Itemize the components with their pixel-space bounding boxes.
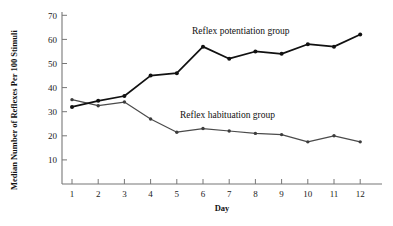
- data-point-marker: [280, 52, 284, 56]
- x-tick-label: 11: [330, 189, 339, 199]
- data-point-marker: [175, 71, 179, 75]
- x-tick-label: 7: [227, 189, 232, 199]
- data-point-marker: [359, 140, 362, 143]
- data-point-marker: [96, 99, 100, 103]
- y-axis-title-text: Median Number of Reflexes Per 100 Stimul…: [9, 30, 19, 190]
- series-label-habituation: Reflex habituation group: [180, 110, 275, 120]
- x-axis-title-text: Day: [215, 203, 230, 213]
- y-axis-title: Median Number of Reflexes Per 100 Stimul…: [9, 30, 19, 190]
- data-point-marker: [122, 94, 126, 98]
- habituation-line: [72, 100, 360, 142]
- x-tick-label: 10: [303, 189, 313, 199]
- y-tick-label: 30: [48, 107, 58, 117]
- series-reflex-habituation: [70, 98, 362, 144]
- x-tick-label: 9: [279, 189, 284, 199]
- data-point-marker: [253, 49, 257, 53]
- series-reflex-potentiation: [70, 33, 362, 109]
- y-tick-group: 10203040506070: [48, 11, 67, 166]
- data-point-marker: [227, 57, 231, 61]
- habituation-markers: [70, 98, 362, 144]
- data-point-marker: [332, 134, 335, 137]
- data-point-marker: [358, 33, 362, 37]
- x-tick-group: 123456789101112: [70, 179, 365, 199]
- x-tick-label: 2: [96, 189, 101, 199]
- data-point-marker: [280, 133, 283, 136]
- y-tick-label: 40: [48, 83, 58, 93]
- y-tick-label: 20: [48, 131, 58, 141]
- data-point-marker: [228, 129, 231, 132]
- x-tick-label: 5: [175, 189, 180, 199]
- series-label-potentiation: Reflex potentiation group: [192, 26, 290, 36]
- data-point-marker: [70, 105, 74, 109]
- data-point-marker: [306, 140, 309, 143]
- chart-figure: Median Number of Reflexes Per 100 Stimul…: [0, 0, 393, 226]
- data-point-marker: [97, 104, 100, 107]
- data-point-marker: [123, 100, 126, 103]
- data-point-marker: [149, 117, 152, 120]
- x-tick-label: 12: [356, 189, 365, 199]
- data-point-marker: [201, 127, 204, 130]
- x-tick-label: 3: [122, 189, 127, 199]
- data-point-marker: [306, 42, 310, 46]
- potentiation-line: [72, 35, 360, 107]
- data-point-marker: [254, 132, 257, 135]
- x-tick-label: 1: [70, 189, 75, 199]
- data-point-marker: [332, 45, 336, 49]
- y-tick-label: 60: [48, 35, 58, 45]
- y-tick-label: 10: [48, 155, 58, 165]
- data-point-marker: [175, 130, 178, 133]
- y-tick-label: 50: [48, 59, 58, 69]
- data-point-marker: [149, 74, 153, 78]
- x-tick-label: 6: [201, 189, 206, 199]
- y-tick-label: 70: [48, 11, 58, 21]
- line-chart: Median Number of Reflexes Per 100 Stimul…: [0, 0, 393, 226]
- x-tick-label: 4: [148, 189, 153, 199]
- data-point-marker: [70, 98, 73, 101]
- data-point-marker: [201, 45, 205, 49]
- x-tick-label: 8: [253, 189, 258, 199]
